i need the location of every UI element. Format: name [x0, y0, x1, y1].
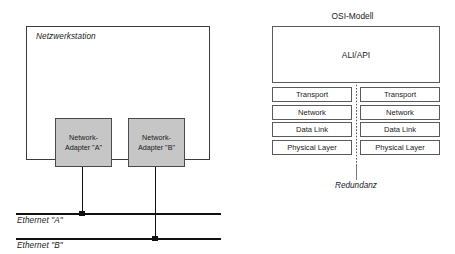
osi-ali-api-label: ALI/API: [342, 50, 370, 60]
adapter-a-drop-line: [82, 167, 83, 214]
ethernet-a-bus-line: [16, 213, 221, 215]
osi-datalink-right-cell: Data Link: [360, 122, 440, 137]
network-adapter-a-label-line2: Adapter "A": [65, 143, 102, 152]
ethernet-b-junction-dot: [152, 236, 158, 241]
ethernet-b-label: Ethernet "B": [17, 241, 63, 250]
network-adapter-b-label-line2: Adapter "B": [138, 143, 175, 152]
osi-transport-right-cell: Transport: [360, 87, 440, 102]
network-adapter-a-label-line1: Network-: [69, 133, 98, 142]
redundancy-label: Redundanz: [250, 181, 455, 190]
osi-transport-left-cell: Transport: [272, 87, 352, 102]
osi-datalink-left-cell: Data Link: [272, 122, 352, 137]
osi-network-left-label: Network: [298, 108, 326, 117]
ethernet-a-label: Ethernet "A": [17, 216, 63, 225]
redundancy-dotted-divider: [356, 83, 358, 166]
osi-model-diagram: OSI-Modell ALI/API Transport Transport N…: [250, 0, 455, 254]
osi-datalink-right-label: Data Link: [384, 125, 416, 134]
network-adapter-b-label-line1: Network-: [142, 133, 171, 142]
osi-model-title: OSI-Modell: [250, 11, 455, 21]
osi-network-left-cell: Network: [272, 105, 352, 120]
osi-physical-left-cell: Physical Layer: [272, 140, 352, 155]
osi-transport-left-label: Transport: [296, 90, 328, 99]
network-station-label: Netzwerkstation: [36, 32, 96, 41]
osi-network-right-cell: Network: [360, 105, 440, 120]
osi-ali-api-box: ALI/API: [272, 26, 440, 83]
network-adapter-a-box: Network- Adapter "A": [55, 118, 112, 167]
osi-network-right-label: Network: [386, 108, 414, 117]
redundancy-leader-line: [356, 166, 357, 180]
network-station-diagram: Netzwerkstation Network- Adapter "A" Net…: [0, 0, 240, 254]
osi-transport-right-label: Transport: [384, 90, 416, 99]
ethernet-a-junction-dot: [79, 211, 85, 216]
adapter-b-drop-line: [155, 167, 156, 239]
osi-physical-right-label: Physical Layer: [375, 143, 424, 152]
osi-physical-right-cell: Physical Layer: [360, 140, 440, 155]
osi-physical-left-label: Physical Layer: [287, 143, 336, 152]
osi-datalink-left-label: Data Link: [296, 125, 328, 134]
network-adapter-b-box: Network- Adapter "B": [128, 118, 185, 167]
ethernet-b-bus-line: [16, 238, 221, 240]
